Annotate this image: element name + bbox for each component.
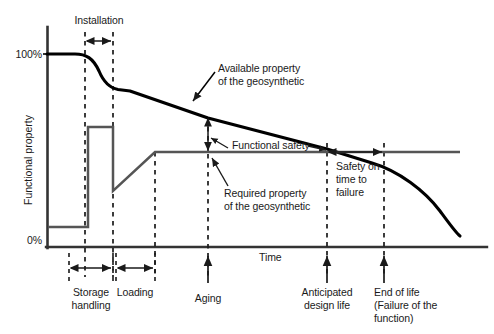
available-property-label-line2: of the geosynthetic	[218, 75, 304, 88]
event-markers-group	[69, 253, 384, 283]
safety-on-time-label-line1: Safety on	[336, 160, 379, 173]
axis-group	[43, 27, 487, 248]
geosynthetic-functional-property-diagram: 100% 0% Functional property Time Install…	[0, 0, 494, 334]
aging-label: Aging	[178, 292, 238, 305]
end-of-life-label-line2: (Failure of the	[374, 299, 437, 312]
y-axis-label: Functional property	[22, 115, 34, 205]
storage-handling-label-line2: handling	[56, 299, 126, 312]
required-property-leader	[212, 158, 228, 186]
y-tick-label-0: 0%	[8, 234, 42, 247]
required-property-label-line1: Required property	[224, 187, 306, 200]
safety-on-time-label-line3: failure	[336, 186, 364, 199]
available-property-label-line1: Available property	[218, 62, 300, 75]
anticipated-design-life-label-line2: design life	[285, 299, 369, 312]
loading-label: Loading	[100, 286, 170, 299]
diagram-canvas	[0, 0, 494, 334]
anticipated-design-life-label-line1: Anticipated	[285, 286, 369, 299]
functional-safety-label: Functional safety	[232, 139, 310, 152]
x-axis-label: Time	[259, 251, 282, 264]
installation-label: Installation	[62, 14, 136, 27]
end-of-life-label-line1: End of life	[374, 286, 420, 299]
safety-on-time-label-line2: time to	[336, 173, 367, 186]
available-property-leader	[193, 72, 215, 101]
functional-safety-leader	[211, 138, 228, 148]
end-of-life-label-line3: function)	[374, 312, 413, 325]
y-tick-label-100: 100%	[8, 48, 42, 61]
required-property-label-line2: of the geosynthetic	[224, 200, 310, 213]
